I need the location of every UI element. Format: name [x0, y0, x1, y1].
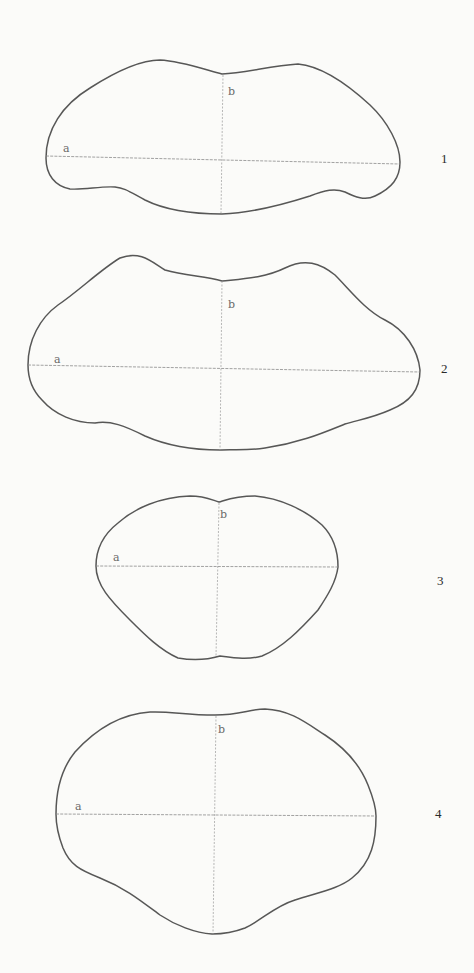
figure-4-axis-a: [56, 814, 376, 816]
figure-3-label-b: b: [220, 509, 227, 520]
figure-4-drawing: [56, 709, 376, 934]
figure-2-label-a: a: [54, 354, 61, 365]
figure-4-axis-b: [213, 716, 216, 934]
figure-3-outline: [96, 496, 338, 659]
figure-4-outline: [56, 709, 376, 934]
figure-2-axis-b: [220, 281, 222, 450]
figure-2-drawing: [28, 255, 420, 450]
figure-3-label-a: a: [113, 552, 120, 563]
figure-2-outline: [28, 255, 420, 450]
figure-3-number: 3: [437, 574, 444, 587]
figure-2-label-b: b: [228, 299, 235, 310]
figure-1-number: 1: [441, 152, 448, 165]
outline-drawings: [0, 0, 474, 973]
figure-1-label-b: b: [228, 86, 235, 97]
figure-4-label-a: a: [75, 801, 82, 812]
figure-4-number: 4: [435, 807, 442, 820]
figure-3-drawing: [96, 496, 338, 659]
figure-4-label-b: b: [218, 724, 225, 735]
figure-plate: a b 1 a b 2 a b 3 a b 4: [0, 0, 474, 973]
figure-1-label-a: a: [63, 143, 70, 154]
figure-3-axis-a: [96, 566, 338, 567]
figure-1-axis-a: [46, 156, 400, 164]
figure-2-axis-a: [28, 365, 420, 372]
figure-2-number: 2: [441, 362, 448, 375]
figure-1-drawing: [46, 60, 400, 214]
figure-3-axis-b: [216, 503, 219, 657]
figure-1-axis-b: [221, 75, 223, 213]
